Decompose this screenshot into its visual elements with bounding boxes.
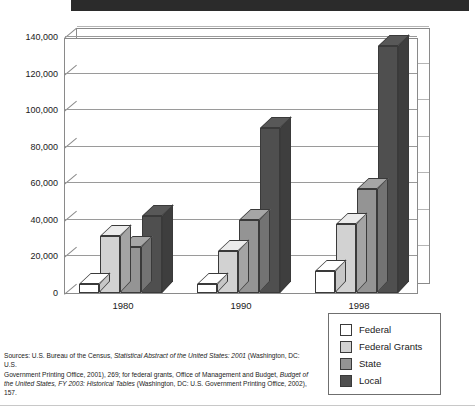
chart-legend: FederalFederal GrantsStateLocal: [328, 313, 441, 395]
bottom-divider: [0, 405, 475, 406]
bar-federal-1998: [315, 271, 335, 293]
bar-front-face: [79, 284, 99, 293]
gridline: [65, 36, 417, 37]
legend-item-federal[interactable]: Federal: [340, 323, 391, 336]
x-axis-label-1990: 1990: [182, 300, 300, 311]
gridline: [65, 73, 417, 74]
plot-area: [64, 38, 418, 294]
source-line-3: the United States, FY 2003: Historical T…: [4, 379, 314, 398]
legend-item-local[interactable]: Local: [340, 374, 382, 387]
bar-side-face: [377, 177, 388, 293]
legend-swatch-icon: [340, 358, 352, 370]
legend-swatch-icon: [340, 324, 352, 336]
bar-side-face: [162, 204, 173, 293]
legend-swatch-icon: [340, 341, 352, 353]
legend-item-federal-grants[interactable]: Federal Grants: [340, 340, 422, 353]
source-line-2: Government Printing Office, 2001), 269; …: [4, 370, 314, 379]
y-axis-tick-label: 80,000: [0, 143, 58, 152]
x-axis-label-1980: 1980: [64, 300, 182, 311]
legend-swatch-icon: [340, 375, 352, 387]
header-black-bar: [71, 0, 469, 11]
y-axis-tick-label: 40,000: [0, 216, 58, 225]
source-citation: Sources: U.S. Bureau of the Census, Stat…: [4, 351, 314, 397]
bar-federal-1980: [79, 284, 99, 293]
chart-figure: 020,00040,00060,00080,000100,000120,0001…: [0, 14, 475, 304]
bar-front-face: [315, 271, 335, 293]
gridline: [65, 109, 417, 110]
legend-label: Federal: [359, 324, 391, 335]
bar-federal-1990: [197, 284, 217, 293]
legend-label: Local: [359, 375, 382, 386]
legend-item-state[interactable]: State: [340, 357, 381, 370]
source-line-1: Sources: U.S. Bureau of the Census, Stat…: [4, 351, 314, 370]
gridline: [65, 146, 417, 147]
y-axis-tick-label: 20,000: [0, 252, 58, 261]
bar-side-face: [280, 117, 291, 293]
y-axis-tick-label: 0: [0, 289, 58, 298]
gridline-back: [77, 26, 429, 27]
y-axis-tick-label: 60,000: [0, 179, 58, 188]
y-axis-tick-label: 140,000: [0, 33, 58, 42]
bar-side-face: [398, 34, 409, 293]
y-axis-tick-label: 120,000: [0, 70, 58, 79]
bar-side-face: [259, 208, 270, 293]
legend-label: Federal Grants: [359, 341, 422, 352]
bar-side-face: [356, 212, 367, 293]
bar-front-face: [197, 284, 217, 293]
x-axis-label-1998: 1998: [300, 300, 418, 311]
legend-label: State: [359, 358, 381, 369]
y-axis-tick-label: 100,000: [0, 106, 58, 115]
